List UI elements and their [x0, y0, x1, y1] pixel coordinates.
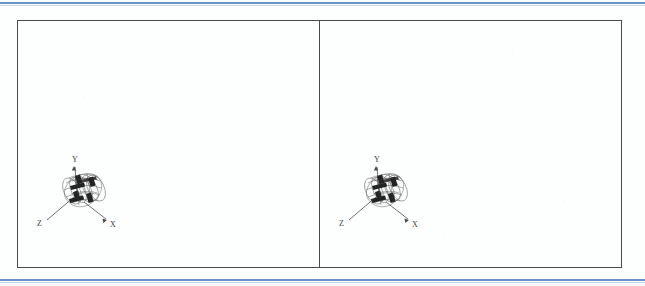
left-model-group: Y Z X [28, 147, 138, 237]
figure-frame: Y Z X [17, 20, 622, 268]
right-axis-label-x: X [412, 220, 418, 229]
left-wireframe-cylinder [59, 172, 110, 207]
right-mesh-svg: Y Z X [330, 147, 440, 237]
left-axis-label-x: X [110, 220, 116, 229]
viewport-row: Y Z X [18, 21, 621, 267]
right-axis-label-y: Y [374, 155, 380, 164]
page-rule-bottom [0, 279, 645, 281]
page-rule-top-hairline [0, 5, 645, 6]
page-rule-bottom-hairline [0, 282, 645, 283]
page-rule-top [0, 2, 645, 4]
left-viewport[interactable]: Y Z X [18, 21, 319, 267]
right-wireframe-cylinder [361, 172, 412, 207]
right-model-group: Y Z X [330, 147, 440, 237]
figure-page: Y Z X [0, 0, 645, 286]
left-mesh-svg: Y Z X [28, 147, 138, 237]
right-axis-label-z: Z [339, 219, 344, 228]
left-axis-label-z: Z [37, 219, 42, 228]
right-viewport[interactable]: Y Z X [319, 21, 621, 267]
left-axis-label-y: Y [72, 155, 78, 164]
